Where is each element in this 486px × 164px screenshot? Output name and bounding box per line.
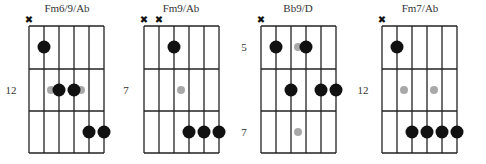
- fretboard-grid: [0, 0, 486, 164]
- finger-dot: [391, 41, 404, 54]
- finger-dot: [421, 126, 434, 139]
- finger-dot: [436, 126, 449, 139]
- finger-dot: [451, 126, 464, 139]
- finger-dot: [406, 126, 419, 139]
- ghost-note-marker: [400, 86, 408, 94]
- ghost-note-marker: [430, 86, 438, 94]
